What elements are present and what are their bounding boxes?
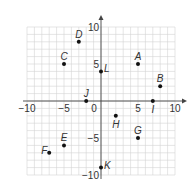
point-marker-icon xyxy=(62,143,66,147)
point-label: D xyxy=(75,29,82,40)
y-tick-label: −10 xyxy=(82,170,99,181)
point-label: B xyxy=(157,73,164,84)
point-marker-icon xyxy=(136,62,140,66)
coordinate-plane: −10−50510105−5−10 ABCDEFGHIJKL xyxy=(0,0,194,194)
point-label: E xyxy=(61,132,68,143)
point-marker-icon xyxy=(84,99,88,103)
x-tick-label: −5 xyxy=(58,103,70,114)
y-tick-label: 5 xyxy=(93,59,99,70)
point-marker-icon xyxy=(151,99,155,103)
point-i: I xyxy=(151,99,155,115)
x-tick-label: 10 xyxy=(169,103,181,114)
x-axis-arrow-icon xyxy=(182,99,187,104)
point-f: F xyxy=(41,145,51,156)
point-marker-icon xyxy=(114,114,118,118)
point-label: J xyxy=(83,88,90,99)
point-label: A xyxy=(134,51,142,62)
point-marker-icon xyxy=(158,84,162,88)
point-marker-icon xyxy=(47,151,51,155)
x-tick-label: 5 xyxy=(135,103,141,114)
point-label: I xyxy=(151,104,154,115)
point-marker-icon xyxy=(99,69,103,73)
x-tick-label: 0 xyxy=(91,103,97,114)
point-label: F xyxy=(41,145,48,156)
point-marker-icon xyxy=(136,136,140,140)
y-tick-label: 10 xyxy=(88,22,100,33)
point-label: G xyxy=(134,125,142,136)
axes xyxy=(23,15,187,179)
point-label: H xyxy=(112,119,120,130)
point-label: K xyxy=(104,160,112,171)
point-marker-icon xyxy=(77,40,81,44)
point-h: H xyxy=(112,114,120,130)
y-axis-arrow-icon xyxy=(99,15,104,20)
point-marker-icon xyxy=(62,62,66,66)
point-label: L xyxy=(104,63,110,74)
y-tick-label: −5 xyxy=(88,133,100,144)
x-tick-label: −10 xyxy=(19,103,36,114)
point-label: C xyxy=(60,51,68,62)
point-marker-icon xyxy=(99,166,103,170)
